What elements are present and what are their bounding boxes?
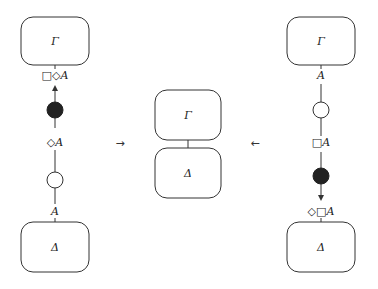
left-label-top: □◇A <box>42 69 69 82</box>
left-label-bottom: A <box>50 205 59 218</box>
left-arrow-icon: ← <box>250 137 259 150</box>
diagram-canvas: Γ □◇A ◇A A Δ → ← Γ Δ Γ A □A ◇□A Δ <box>0 0 378 289</box>
right-filled-node <box>313 168 329 184</box>
right-top-box-label: Γ <box>316 35 325 48</box>
left-top-box-label: Γ <box>50 35 59 48</box>
right-derivation: Γ A □A ◇□A Δ <box>287 17 355 272</box>
right-label-bottom: ◇□A <box>308 205 335 218</box>
right-open-node <box>313 102 329 118</box>
right-arrow-icon: → <box>115 137 124 150</box>
right-label-top: A <box>316 69 325 82</box>
middle-composition: Γ Δ <box>155 90 221 198</box>
middle-top-box-label: Γ <box>183 109 192 122</box>
right-bottom-box-label: Δ <box>316 241 325 254</box>
middle-bottom-box-label: Δ <box>183 167 192 180</box>
right-label-mid: □A <box>312 136 330 149</box>
left-label-mid: ◇A <box>47 136 63 149</box>
left-open-node <box>47 172 63 188</box>
left-bottom-box-label: Δ <box>50 241 59 254</box>
left-filled-node <box>47 102 63 118</box>
left-derivation: Γ □◇A ◇A A Δ <box>21 17 89 272</box>
